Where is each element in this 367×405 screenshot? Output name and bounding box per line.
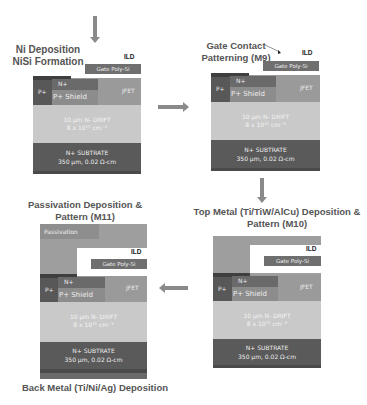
left-arrow-icon <box>164 286 188 290</box>
drift-label: 10 μm N- DRIFT <box>211 113 320 121</box>
p-shield-label: P+ Shield <box>59 291 93 299</box>
substrate-bottom <box>211 168 320 171</box>
p-shield-region: P+ Shield <box>230 87 276 102</box>
n-plus-region: N+ <box>232 276 278 287</box>
drift-label: 10 μm N- DRIFT <box>33 116 141 124</box>
substrate-label: N+ SUBTRATE <box>211 146 320 154</box>
gate-poly-label: Gate Poly-Si <box>91 260 147 268</box>
back-metal-layer <box>40 373 147 379</box>
p-plus-label: P+ <box>45 286 54 294</box>
jfet-label: JFET <box>300 84 313 92</box>
p-plus-region: P+ <box>40 278 58 302</box>
n-plus-label: N+ <box>238 277 248 285</box>
gate-poly-label: Gate Poly-Si <box>263 62 319 70</box>
substrate-spec-label: 350 μm, 0.02 Ω-cm <box>33 158 141 166</box>
drift-layer: 10 μm N- DRIFT 8 x 10¹⁵ cm⁻³ <box>211 102 320 140</box>
drift-layer: 10 μm N- DRIFT 8 x 10¹⁵ cm⁻³ <box>213 301 321 339</box>
substrate-layer: N+ SUBTRATE 350 μm, 0.02 Ω-cm <box>213 339 321 365</box>
substrate-layer: N+ SUBTRATE 350 μm, 0.02 Ω-cm <box>211 140 320 168</box>
passivation-layer: Passivation <box>40 224 99 239</box>
title-line: Ni Deposition <box>8 44 88 56</box>
drift-doping-label: 8 x 10¹⁵ cm⁻³ <box>40 321 147 329</box>
substrate-spec-label: 350 μm, 0.02 Ω-cm <box>213 353 321 361</box>
p-plus-region: P+ <box>33 80 52 105</box>
substrate-layer: N+ SUBTRATE 350 μm, 0.02 Ω-cm <box>33 143 141 171</box>
panel-title: Passivation Deposition & Pattern (M11) <box>20 199 150 223</box>
drift-layer: 10 μm N- DRIFT 8 x 10¹⁵ cm⁻³ <box>40 302 147 342</box>
gate-poly-layer: Gate Poly-Si <box>263 61 319 71</box>
p-shield-region: P+ Shield <box>232 287 278 301</box>
substrate-layer: N+ SUBTRATE 350 μm, 0.02 Ω-cm <box>40 342 147 369</box>
p-shield-region: P+ Shield <box>52 90 98 105</box>
substrate-label: N+ SUBTRATE <box>213 344 321 352</box>
p-plus-region: P+ <box>213 277 232 301</box>
p-shield-label: P+ Shield <box>231 90 265 98</box>
jfet-label: JFET <box>126 284 139 292</box>
drift-doping-label: 8 x 10¹⁵ cm⁻³ <box>213 320 321 328</box>
jfet-label: JFET <box>122 87 135 95</box>
n-plus-region: N+ <box>230 76 276 87</box>
title-line: Pattern (M10) <box>192 218 362 230</box>
panel-footer: Back Metal (Ti/Ni/Ag) Deposition <box>20 382 170 394</box>
panel-title: Ni Deposition NiSi Formation <box>8 44 88 68</box>
right-arrow-icon <box>158 105 184 109</box>
panel-title: Top Metal (Ti/TiW/AlCu) Deposition & Pat… <box>192 206 362 230</box>
p-shield-region: P+ Shield <box>58 288 105 302</box>
p-shield-label: P+ Shield <box>233 290 267 298</box>
ild-label: ILD <box>302 49 312 56</box>
substrate-bottom <box>33 171 141 174</box>
drift-doping-label: 8 x 10¹⁵ cm⁻³ <box>211 121 320 129</box>
gate-poly-layer: Gate Poly-Si <box>264 256 321 266</box>
p-plus-label: P+ <box>38 88 47 96</box>
n-plus-label: N+ <box>236 77 246 85</box>
n-plus-label: N+ <box>64 278 74 286</box>
p-plus-label: P+ <box>218 285 227 293</box>
title-line: Pattern (M11) <box>20 211 150 223</box>
ild-label: ILD <box>131 248 141 255</box>
drift-layer: 10 μm N- DRIFT 8 x 10¹⁵ cm⁻³ <box>33 105 141 143</box>
substrate-label: N+ SUBTRATE <box>33 149 141 157</box>
title-line: Passivation Deposition & <box>20 199 150 211</box>
p-shield-label: P+ Shield <box>53 93 87 101</box>
gate-poly-layer: Gate Poly-Si <box>85 64 141 74</box>
substrate-spec-label: 350 μm, 0.02 Ω-cm <box>211 155 320 163</box>
passivation-label: Passivation <box>44 228 78 236</box>
jfet-label: JFET <box>300 283 313 291</box>
n-plus-label: N+ <box>58 80 68 88</box>
n-plus-region: N+ <box>58 277 105 288</box>
pointer-arrow-icon <box>264 44 284 56</box>
drift-doping-label: 8 x 10¹⁵ cm⁻³ <box>33 124 141 132</box>
ild-label: ILD <box>306 245 316 252</box>
p-plus-label: P+ <box>216 85 225 93</box>
gate-poly-label: Gate Poly-Si <box>264 257 321 265</box>
gate-poly-label: Gate Poly-Si <box>85 65 141 73</box>
gate-poly-layer: Gate Poly-Si <box>91 259 147 269</box>
drift-label: 10 μm N- DRIFT <box>40 313 147 321</box>
drift-label: 10 μm N- DRIFT <box>213 312 321 320</box>
substrate-bottom <box>213 365 321 368</box>
title-line: NiSi Formation <box>8 56 88 68</box>
substrate-spec-label: 350 μm, 0.02 Ω-cm <box>40 356 147 364</box>
down-arrow-icon <box>93 16 97 38</box>
down-arrow-icon <box>260 178 264 198</box>
ild-label: ILD <box>124 53 134 60</box>
p-plus-region: P+ <box>211 77 230 102</box>
title-line: Top Metal (Ti/TiW/AlCu) Deposition & <box>192 206 362 218</box>
n-plus-region: N+ <box>52 79 98 90</box>
substrate-label: N+ SUBTRATE <box>40 347 147 355</box>
